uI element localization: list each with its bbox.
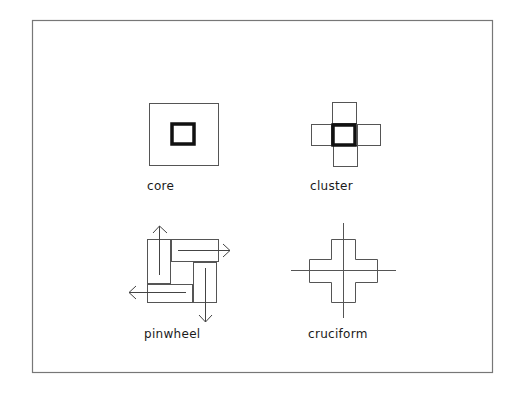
arrow-left-icon <box>129 286 186 299</box>
diagram-canvas: core cluster <box>0 0 520 395</box>
core-diagram: core <box>147 104 219 194</box>
pinwheel-diagram: pinwheel <box>129 226 230 341</box>
cluster-right-square <box>358 125 381 146</box>
cruciform-diagram: cruciform <box>291 223 396 341</box>
cluster-diagram: cluster <box>310 103 381 194</box>
pinwheel-label: pinwheel <box>144 327 200 341</box>
core-outer-square <box>150 104 219 166</box>
outer-frame <box>33 21 493 373</box>
cluster-center-square <box>333 125 355 145</box>
arrow-right-icon <box>178 244 230 257</box>
arrow-up-icon <box>153 226 167 275</box>
cluster-top-square <box>333 103 357 124</box>
cluster-bottom-square <box>334 146 358 167</box>
cruciform-label: cruciform <box>308 327 368 341</box>
core-label: core <box>147 179 174 193</box>
cluster-label: cluster <box>310 179 353 193</box>
arrow-down-icon <box>199 268 212 322</box>
core-inner-square <box>172 124 194 144</box>
pinwheel-bottom-bar <box>148 285 193 303</box>
cluster-left-square <box>312 125 332 146</box>
